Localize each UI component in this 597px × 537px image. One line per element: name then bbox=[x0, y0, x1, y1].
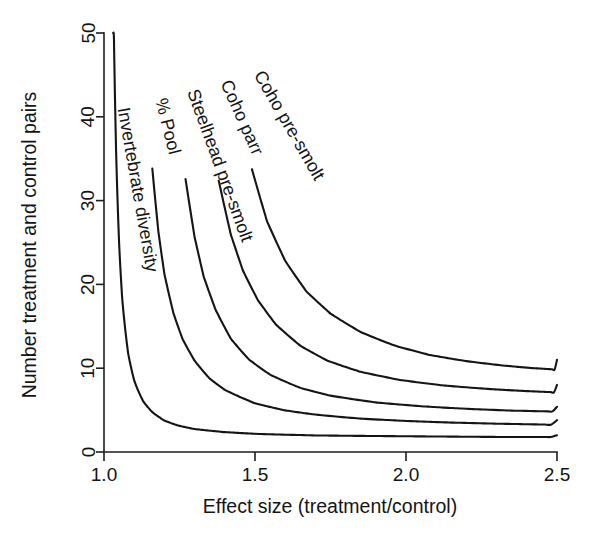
power-analysis-line-chart: Invertebrate diversity% PoolSteelhead pr… bbox=[0, 0, 597, 537]
y-tick-label: 10 bbox=[78, 358, 99, 379]
x-axis-title: Effect size (treatment/control) bbox=[203, 495, 457, 517]
y-axis-title: Number treatment and control pairs bbox=[18, 91, 40, 398]
y-tick-label: 30 bbox=[78, 190, 99, 211]
x-tick-label: 2.5 bbox=[544, 464, 570, 485]
y-tick-label: 20 bbox=[78, 274, 99, 295]
y-tick-label: 50 bbox=[78, 22, 99, 43]
x-tick-label: 1.0 bbox=[91, 464, 117, 485]
y-tick-label: 40 bbox=[78, 106, 99, 127]
x-tick-label: 1.5 bbox=[242, 464, 268, 485]
y-tick-label: 0 bbox=[78, 447, 99, 458]
chart-figure: Invertebrate diversity% PoolSteelhead pr… bbox=[0, 0, 597, 537]
x-tick-label: 2.0 bbox=[393, 464, 419, 485]
